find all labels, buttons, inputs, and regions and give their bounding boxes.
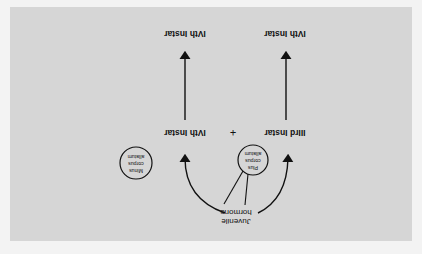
svg-text:allatum: allatum — [245, 151, 262, 157]
hormone-label-line1: Juvenile — [221, 217, 251, 226]
hormone-to-left-arrow — [258, 158, 288, 213]
svg-text:corpus: corpus — [245, 158, 261, 164]
hormone-link-line-2 — [224, 171, 243, 204]
svg-text:Plus: Plus — [248, 165, 258, 171]
minus-corpus-allatum-circle: Minus corpus allatum — [120, 147, 152, 179]
right-end-label: IVth Instar — [164, 29, 206, 39]
juvenile-hormone-diagram: IVth Instar IVth Instar IIIrd Instar + I… — [0, 0, 422, 254]
svg-text:allatum: allatum — [128, 154, 145, 160]
right-start-label: IVth Instar — [164, 128, 206, 138]
svg-text:Minus: Minus — [129, 168, 143, 174]
left-start-label: IIIrd Instar — [264, 128, 306, 138]
plus-corpus-allatum-circle: Plus corpus allatum — [238, 145, 268, 175]
hormone-link-line-1 — [245, 174, 248, 205]
left-end-label: IVth Instar — [264, 29, 306, 39]
svg-text:corpus: corpus — [128, 161, 144, 167]
plus-sign: + — [230, 127, 236, 139]
hormone-to-right-arrow — [185, 158, 225, 213]
